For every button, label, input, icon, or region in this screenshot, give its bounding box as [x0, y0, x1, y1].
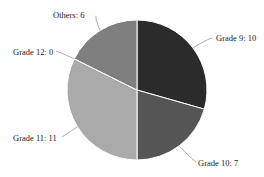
pie-chart: Grade 9: 10Grade 10: 7Grade 11: 11Grade … — [0, 0, 264, 177]
slice-label: Others: 6 — [53, 10, 84, 20]
leader-line — [62, 127, 77, 137]
slice-label: Grade 10: 7 — [198, 158, 238, 168]
leader-line — [56, 51, 74, 59]
slice-label: Grade 11: 11 — [13, 133, 57, 143]
leader-line — [179, 146, 196, 162]
slice-label: Grade 12: 0 — [13, 47, 53, 57]
leader-line — [96, 16, 100, 30]
slice-label: Grade 9: 10 — [216, 33, 256, 43]
leader-line — [193, 38, 212, 48]
pie-slices — [67, 20, 207, 160]
